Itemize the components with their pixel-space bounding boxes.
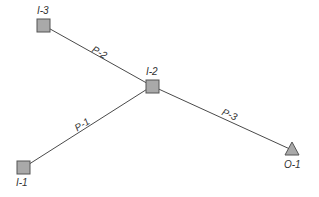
node-i-3[interactable]: I-3 xyxy=(37,5,50,32)
edge-label-p-1: P-1 xyxy=(73,116,92,134)
node-label-i-1: I-1 xyxy=(16,177,28,188)
node-label-i-3: I-3 xyxy=(37,5,49,16)
square-node-icon xyxy=(146,80,159,93)
square-node-icon xyxy=(37,19,50,32)
network-diagram: P-2 P-1 P-3 I-3 I-2 I-1 O-1 xyxy=(0,0,319,197)
square-node-icon xyxy=(17,161,30,174)
node-i-1[interactable]: I-1 xyxy=(16,161,30,188)
node-label-o-1: O-1 xyxy=(284,159,301,170)
triangle-node-icon xyxy=(285,142,299,155)
node-o-1[interactable]: O-1 xyxy=(284,142,301,170)
node-label-i-2: I-2 xyxy=(146,66,158,77)
edge-label-p-2: P-2 xyxy=(90,44,109,61)
node-i-2[interactable]: I-2 xyxy=(146,66,159,93)
edge-label-p-3: P-3 xyxy=(220,106,239,123)
edge-p-3 xyxy=(152,86,292,150)
